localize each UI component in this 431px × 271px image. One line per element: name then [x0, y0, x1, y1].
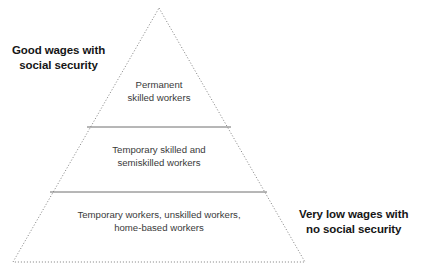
pyramid-tier-top-label: Permanentskilled workers	[79, 78, 239, 104]
pyramid-tier-middle-label: Temporary skilled andsemiskilled workers	[79, 143, 239, 169]
label-low-wages-line1: Very low wages with	[299, 208, 408, 220]
label-good-wages-line2: social security	[19, 59, 97, 71]
tier-bottom-line2: home-based workers	[114, 222, 204, 233]
label-very-low-wages-no-social-security: Very low wages withno social security	[299, 207, 408, 236]
tier-middle-line1: Temporary skilled and	[112, 144, 205, 155]
label-good-wages-line1: Good wages with	[12, 44, 105, 56]
tier-top-line2: skilled workers	[128, 92, 191, 103]
label-good-wages-social-security: Good wages withsocial security	[12, 43, 105, 72]
pyramid-tier-bottom-label: Temporary workers, unskilled workers,hom…	[39, 208, 279, 234]
label-low-wages-line2: no social security	[306, 223, 401, 235]
tier-bottom-line1: Temporary workers, unskilled workers,	[77, 209, 240, 220]
tier-middle-line2: semiskilled workers	[117, 157, 200, 168]
tier-top-line1: Permanent	[136, 79, 183, 90]
pyramid-diagram: Good wages withsocial security Very low …	[0, 0, 431, 271]
